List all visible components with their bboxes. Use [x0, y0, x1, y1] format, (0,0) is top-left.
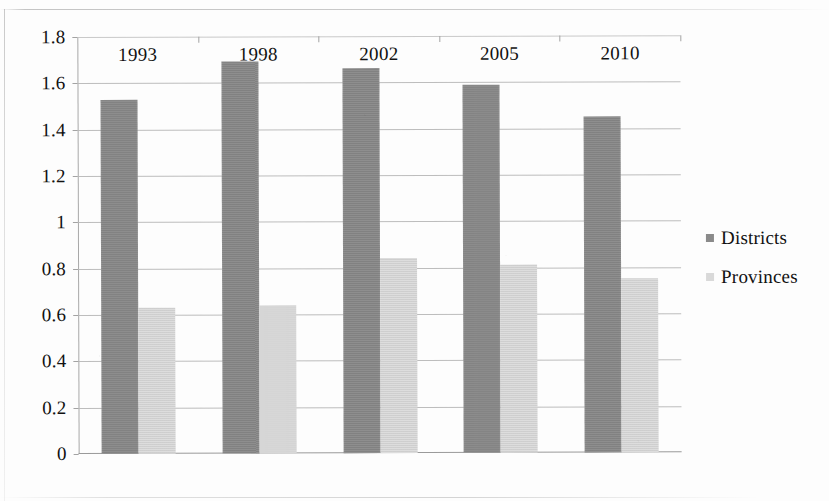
y-axis-line: [77, 37, 79, 454]
bar-districts-1998: [221, 62, 259, 454]
bar-districts-2005: [463, 84, 501, 452]
chart-legend: DistrictsProvinces: [706, 227, 826, 305]
bar-provinces-2002: [380, 258, 418, 453]
y-tick-label: 1: [4, 212, 66, 231]
bar-districts-2010: [583, 116, 621, 452]
y-tick-label: 0.8: [4, 259, 66, 278]
y-tick-label: 1.6: [3, 73, 65, 92]
x-tick-label-2010: 2010: [600, 43, 639, 63]
legend-label-provinces: Provinces: [721, 267, 798, 287]
y-tick-mark: [73, 130, 78, 131]
legend-swatch-districts-icon: [706, 234, 714, 242]
y-tick-mark: [73, 315, 78, 316]
y-tick-mark: [72, 37, 77, 38]
y-tick-label: 1.2: [4, 166, 66, 185]
y-tick-label: 0: [5, 444, 67, 463]
x-tick-mark: [560, 36, 561, 42]
x-tick-mark: [439, 36, 440, 42]
x-tick-label-1993: 1993: [118, 45, 157, 65]
x-tick-mark: [198, 37, 199, 43]
y-tick-mark: [72, 83, 77, 84]
bar-provinces-2010: [621, 278, 659, 452]
gridline: [77, 35, 680, 38]
y-tick-mark: [73, 176, 78, 177]
y-tick-label: 0.6: [4, 305, 66, 324]
bar-provinces-1993: [138, 308, 175, 454]
y-tick-label: 1.8: [3, 27, 65, 46]
y-tick-mark: [73, 361, 78, 362]
bar-provinces-2005: [500, 265, 538, 453]
y-tick-mark: [73, 408, 78, 409]
bar-provinces-1998: [259, 305, 296, 453]
x-tick-label-2005: 2005: [480, 44, 519, 64]
bar-chart: 00.20.40.60.811.21.41.61.8 1993199820022…: [0, 0, 829, 501]
plot-area: 00.20.40.60.811.21.41.61.8 1993199820022…: [77, 35, 681, 454]
x-tick-mark: [680, 35, 681, 41]
x-tick-label-1998: 1998: [239, 44, 278, 64]
x-tick-mark: [319, 36, 320, 42]
y-tick-label: 0.2: [4, 398, 66, 417]
bar-districts-1993: [101, 99, 139, 454]
legend-label-districts: Districts: [721, 228, 787, 248]
y-tick-mark: [74, 454, 79, 455]
legend-item-provinces[interactable]: Provinces: [706, 266, 826, 288]
legend-swatch-provinces-icon: [706, 273, 714, 281]
x-tick-label-2002: 2002: [359, 44, 398, 64]
y-tick-mark: [73, 222, 78, 223]
bar-districts-2002: [342, 69, 380, 454]
y-tick-label: 1.4: [4, 120, 66, 139]
y-tick-mark: [73, 269, 78, 270]
y-tick-label: 0.4: [4, 351, 66, 370]
y-gridlines: [77, 35, 680, 37]
scanned-page: 00.20.40.60.811.21.41.61.8 1993199820022…: [0, 0, 829, 501]
legend-item-districts[interactable]: Districts: [706, 227, 826, 249]
